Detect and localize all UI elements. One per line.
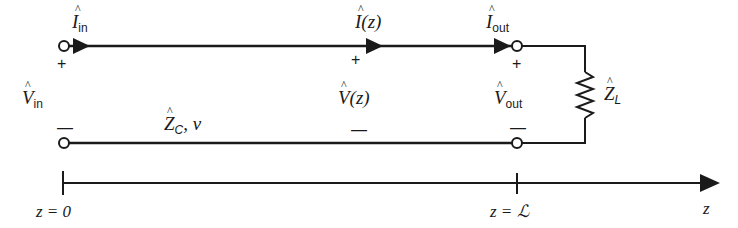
circuit-drawing [0, 0, 738, 228]
current-in-arrow-icon [73, 38, 90, 54]
output-terminal-bottom [512, 138, 522, 148]
label-I-out: Iout [486, 12, 509, 31]
label-I-in: Iin [72, 12, 88, 31]
plus-sign-z: + [351, 52, 360, 68]
axis-label-z0: z = 0 [36, 203, 71, 220]
label-Z-characteristic: ZC, v [164, 114, 201, 133]
label-V-z: V(z) [338, 88, 370, 107]
label-V-in: Vin [22, 88, 43, 107]
output-terminal-top [512, 41, 522, 51]
minus-sign-in: — [57, 120, 73, 136]
plus-sign-in: + [57, 56, 66, 72]
axis-label-zL: z = ℒ [490, 203, 529, 220]
minus-sign-z: — [351, 122, 367, 138]
axis-name-z: z [703, 200, 710, 217]
z-axis-arrow-icon [700, 174, 720, 192]
minus-sign-out: — [510, 120, 526, 136]
plus-sign-out: + [512, 56, 521, 72]
current-out-arrow-icon [494, 38, 511, 54]
current-z-arrow-icon [366, 38, 383, 54]
input-terminal-bottom [59, 138, 69, 148]
label-V-out: Vout [494, 88, 522, 107]
load-wire-bottom [522, 118, 585, 143]
label-I-z: I(z) [355, 12, 381, 31]
load-wire-top [522, 46, 585, 72]
label-Z-load: ZL [604, 84, 621, 103]
load-resistor-icon [577, 72, 593, 118]
input-terminal-top [59, 41, 69, 51]
